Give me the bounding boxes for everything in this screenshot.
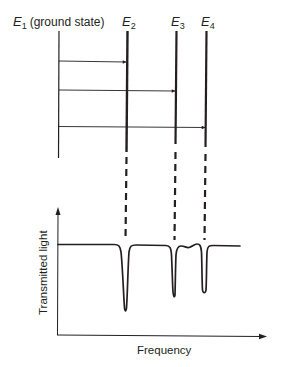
level-line-e4 (206, 31, 207, 147)
level-line-e1 (59, 31, 60, 158)
dash-e2 (126, 157, 127, 240)
e4-label: E4 (201, 14, 215, 31)
dash-e4 (205, 154, 206, 240)
arrow-e1-e4 (59, 127, 205, 128)
transmission-spectrum-curve (58, 244, 240, 311)
energy-levels (59, 31, 207, 158)
x-axis-arrowhead-icon (259, 334, 267, 339)
energy-level-absorption-diagram: E1(ground state) E2 E3 E4 Transmitted li… (0, 0, 281, 367)
y-axis-arrowhead-icon (56, 207, 61, 215)
e2-label: E2 (122, 14, 136, 31)
level-labels: E1(ground state) E2 E3 E4 (13, 14, 215, 31)
y-axis-label: Transmitted light (37, 230, 49, 315)
arrow-e1-e3 (59, 90, 175, 91)
transition-arrows (59, 61, 205, 128)
arrow-e1-e2 (59, 61, 126, 62)
e3-label: E3 (171, 14, 185, 31)
x-axis-label: Frequency (137, 344, 192, 356)
dashed-connectors (126, 152, 206, 240)
y-axis (58, 212, 59, 335)
level-line-e2 (127, 31, 128, 152)
x-axis (57, 335, 261, 337)
e1-label: E1(ground state) (13, 14, 104, 31)
spectrum-axes (56, 207, 268, 339)
dash-e3 (175, 152, 176, 240)
